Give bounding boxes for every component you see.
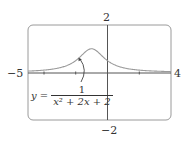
equation-lhs: y = (31, 90, 48, 101)
equation-numerator: 1 (77, 84, 87, 95)
function-equation-label: y = 1 x² + 2x + 2 (31, 84, 113, 107)
x-min-label: −5 (7, 68, 23, 79)
y-max-label: 2 (103, 12, 110, 23)
equation-denominator: x² + 2x + 2 (51, 95, 113, 107)
equation-fraction: 1 x² + 2x + 2 (51, 84, 113, 107)
graph-canvas (0, 0, 192, 143)
label-pointer-arrow (80, 59, 84, 82)
y-min-label: −2 (101, 125, 117, 136)
x-max-label: 4 (174, 68, 181, 79)
function-curve (28, 49, 171, 72)
